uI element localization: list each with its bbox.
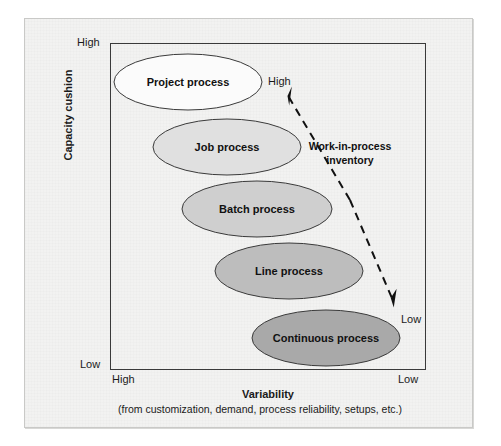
wip-inventory-label-line2: inventory: [300, 154, 400, 168]
y-axis-low-label: Low: [80, 358, 100, 372]
x-axis-high-label: High: [112, 373, 135, 387]
figure-container: Project process Job process Batch proces…: [0, 0, 501, 446]
y-axis-title: Capacity cushion: [62, 55, 74, 175]
wip-inventory-label-line1: Work-in-process: [300, 140, 400, 154]
wip-inventory-label: Work-in-process inventory: [300, 140, 400, 167]
wip-arrow-low-label: Low: [401, 313, 421, 327]
wip-arrow-high-label: High: [268, 75, 291, 89]
x-axis-subtitle: (from customization, demand, process rel…: [60, 403, 460, 415]
y-axis-high-label: High: [77, 36, 100, 50]
x-axis-low-label: Low: [398, 373, 418, 387]
plot-area-border: [110, 43, 426, 370]
x-axis-title: Variability: [110, 388, 426, 400]
